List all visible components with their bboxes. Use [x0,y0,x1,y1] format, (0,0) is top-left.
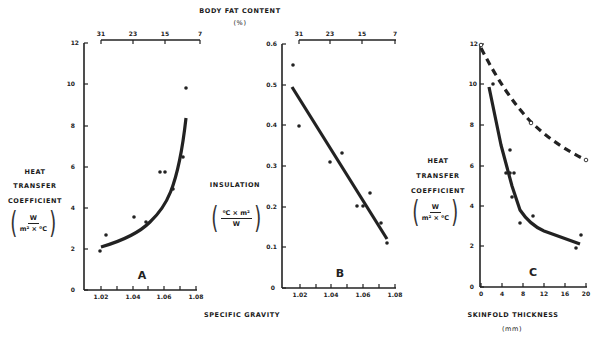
panel-c-letter: C [529,266,537,279]
svg-text:4: 4 [71,204,75,211]
panel-c [480,44,587,287]
svg-text:31: 31 [295,30,303,37]
svg-text:7: 7 [393,30,397,37]
svg-text:12: 12 [470,40,478,47]
panel-c-ylabel-line1: HEAT [408,157,468,165]
svg-text:1.06: 1.06 [356,291,371,298]
panel-a-ylabel-line3: COEFFICIENT [5,197,65,205]
panel-b-ylabel: INSULATION [205,181,265,189]
panel-a-yunit: ( W m² × ⁰C ) [8,208,59,238]
svg-text:12: 12 [71,39,79,46]
panel-c-xunit: (mm) [497,325,527,333]
panel-a-letter: A [138,269,147,282]
svg-text:23: 23 [129,30,137,37]
panel-b [282,40,396,288]
svg-text:4: 4 [470,202,474,209]
svg-text:1.08: 1.08 [388,291,403,298]
svg-text:10: 10 [469,80,477,87]
svg-text:23: 23 [326,30,334,37]
svg-text:8: 8 [521,290,525,297]
figure-canvas: 0 2 4 6 8 10 12 1.02 1.04 1.06 1.08 31 2… [0,0,602,343]
svg-text:6: 6 [470,162,474,169]
svg-text:0.1: 0.1 [266,243,277,250]
svg-text:15: 15 [161,30,169,37]
svg-text:1.02: 1.02 [293,291,308,298]
panel-b-letter: B [336,267,344,280]
panel-b-yunit: ( ⁰C × m² W ) [209,203,264,233]
svg-text:0: 0 [470,283,474,290]
panel-c-tick-labels: 0 2 4 6 8 10 12 0 4 8 12 16 20 C [469,40,591,297]
panel-a-ylabel-line1: HEAT [5,168,65,176]
svg-text:0.2: 0.2 [266,203,277,210]
svg-text:8: 8 [71,122,75,129]
panel-a-tick-labels: 0 2 4 6 8 10 12 1.02 1.04 1.06 1.08 31 2… [67,30,204,300]
panel-a-ylabel-line2: TRANSFER [5,182,65,190]
panel-c-yunit: ( W m² × ⁰C ) [410,197,461,227]
svg-text:0.5: 0.5 [266,81,277,88]
svg-text:20: 20 [582,290,590,297]
panel-b-tick-labels: 0 0.1 0.2 0.3 0.4 0.5 0.6 1.02 1.04 1.06… [266,30,402,298]
svg-text:10: 10 [67,80,75,87]
svg-text:4: 4 [500,290,504,297]
svg-text:6: 6 [71,163,75,170]
svg-text:0: 0 [71,286,75,293]
svg-text:1.02: 1.02 [94,293,109,300]
svg-text:16: 16 [561,290,569,297]
panel-c-points [491,82,583,250]
svg-text:0.6: 0.6 [266,40,277,47]
svg-text:1.04: 1.04 [126,293,141,300]
svg-text:7: 7 [198,30,202,37]
svg-text:0: 0 [271,284,275,291]
panel-c-ylabel-line2: TRANSFER [408,172,468,180]
svg-text:1.06: 1.06 [157,293,172,300]
svg-text:12: 12 [540,290,548,297]
svg-text:0.4: 0.4 [266,121,277,128]
panel-c-open-circles [479,43,588,162]
shared-xlabel: SPECIFIC GRAVITY [182,311,302,319]
panel-c-xlabel: SKINFOLD THICKNESS [458,311,568,319]
svg-text:1.04: 1.04 [324,291,339,298]
svg-text:0.3: 0.3 [266,162,277,169]
panel-a [84,40,200,290]
svg-text:2: 2 [470,242,474,249]
svg-text:8: 8 [470,121,474,128]
svg-text:15: 15 [358,30,366,37]
svg-text:1.08: 1.08 [189,293,204,300]
svg-text:31: 31 [97,30,105,37]
svg-text:2: 2 [71,245,75,252]
svg-text:0: 0 [479,290,483,297]
